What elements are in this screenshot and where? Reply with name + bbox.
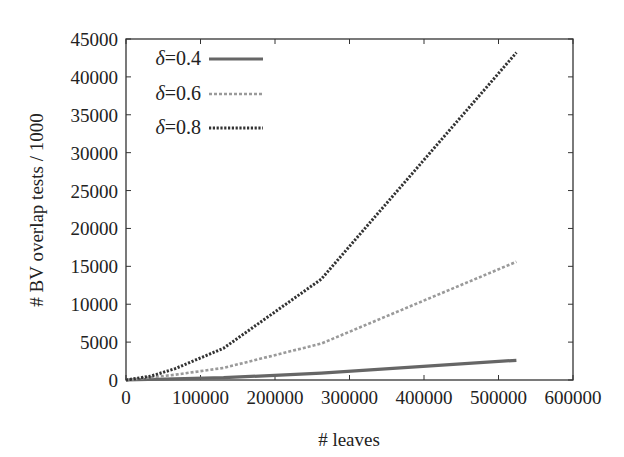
y-tick-label: 45000 xyxy=(71,29,119,50)
x-tick-label: 200000 xyxy=(247,387,304,408)
legend-value: =0.8 xyxy=(165,116,201,138)
x-tick-label: 100000 xyxy=(172,387,229,408)
legend-value: =0.6 xyxy=(165,82,201,104)
y-tick-label: 15000 xyxy=(71,256,119,277)
x-tick-label: 600000 xyxy=(545,387,602,408)
y-tick-label: 35000 xyxy=(71,105,119,126)
y-axis-title: # BV overlap tests / 1000 xyxy=(26,113,47,306)
legend: δ=0.4δ=0.6δ=0.8 xyxy=(155,47,263,138)
x-tick-label: 400000 xyxy=(396,387,453,408)
legend-label: δ=0.6 xyxy=(155,82,201,104)
x-tick-label: 0 xyxy=(121,387,131,408)
x-tick-label: 300000 xyxy=(321,387,378,408)
line-chart: 0100000200000300000400000500000600000 05… xyxy=(0,0,624,457)
legend-label: δ=0.8 xyxy=(155,116,201,138)
y-tick-label: 25000 xyxy=(71,181,119,202)
legend-value: =0.4 xyxy=(165,47,201,69)
y-tick-label: 5000 xyxy=(80,332,118,353)
x-axis-title: # leaves xyxy=(318,429,380,450)
x-tick-label: 500000 xyxy=(470,387,527,408)
y-tick-label: 30000 xyxy=(71,143,119,164)
y-tick-label: 0 xyxy=(109,370,119,391)
y-tick-label: 10000 xyxy=(71,294,119,315)
y-tick-label: 20000 xyxy=(71,218,119,239)
y-axis: 0500010000150002000025000300003500040000… xyxy=(71,29,574,391)
legend-label: δ=0.4 xyxy=(155,47,201,69)
y-tick-label: 40000 xyxy=(71,67,119,88)
